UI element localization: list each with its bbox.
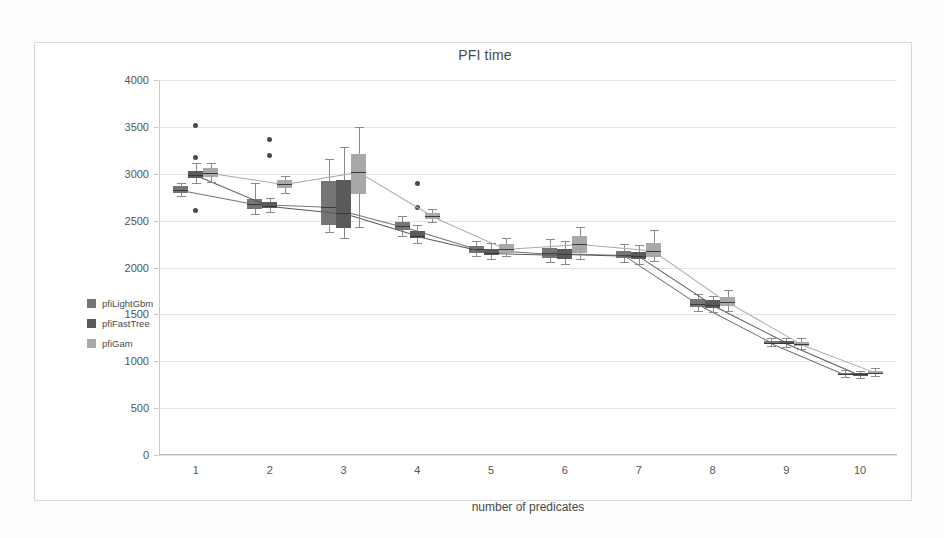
- median-line: [838, 374, 853, 375]
- y-axis-tick-mark: [154, 80, 159, 81]
- whisker-cap: [325, 159, 334, 160]
- whisker-cap: [502, 238, 511, 239]
- y-axis-tick-label: 3000: [89, 168, 157, 180]
- median-line: [499, 249, 514, 250]
- whisker-cap: [177, 183, 186, 184]
- median-line: [720, 302, 735, 303]
- outlier-point[interactable]: [267, 153, 272, 158]
- median-line: [410, 236, 425, 237]
- y-axis-tick-label: 2500: [89, 215, 157, 227]
- whisker-cap: [340, 238, 349, 239]
- median-line: [188, 175, 203, 176]
- median-line: [631, 256, 646, 257]
- whisker-cap: [620, 244, 629, 245]
- whisker-cap: [724, 311, 733, 312]
- gridline: [159, 127, 897, 128]
- y-axis-tick-label: 0: [89, 449, 157, 461]
- y-axis-tick-mark: [154, 127, 159, 128]
- gridline: [159, 80, 897, 81]
- outlier-point[interactable]: [267, 137, 272, 142]
- median-line: [277, 184, 292, 185]
- median-line: [395, 226, 410, 227]
- x-axis-label: number of predicates: [159, 500, 897, 514]
- gridline: [159, 408, 897, 409]
- whisker-cap: [281, 193, 290, 194]
- y-axis-tick-label: 1000: [89, 355, 157, 367]
- median-line: [425, 216, 440, 217]
- whisker-cap: [546, 262, 555, 263]
- y-axis-tick-mark: [154, 268, 159, 269]
- y-axis-tick-mark: [154, 221, 159, 222]
- whisker-cap: [413, 225, 422, 226]
- legend-swatch-icon: [87, 339, 96, 348]
- whisker-cap: [871, 368, 880, 369]
- median-line: [764, 343, 779, 344]
- legend-item-label: pfiGam: [102, 338, 133, 349]
- whisker-cap: [709, 312, 718, 313]
- whisker-cap: [398, 236, 407, 237]
- whisker-cap: [398, 216, 407, 217]
- box-plot-box[interactable]: [321, 181, 336, 225]
- whisker-cap: [192, 163, 201, 164]
- whisker-cap: [561, 264, 570, 265]
- y-axis-tick-mark: [154, 408, 159, 409]
- median-line: [705, 305, 720, 306]
- whisker-cap: [502, 256, 511, 257]
- whisker-cap: [340, 147, 349, 148]
- whisker-cap: [856, 378, 865, 379]
- whisker-cap: [355, 127, 364, 128]
- chart-page: PFI time pfiLightGbmpfiFastTreepfiGam 05…: [0, 0, 944, 538]
- whisker-cap: [797, 338, 806, 339]
- whisker-cap: [767, 346, 776, 347]
- series-connector-line: [638, 256, 712, 306]
- x-axis-tick-label: 1: [193, 464, 199, 476]
- median-line: [779, 343, 794, 344]
- whisker-cap: [635, 264, 644, 265]
- whisker-cap: [281, 176, 290, 177]
- whisker-cap: [428, 209, 437, 210]
- x-axis-tick-label: 4: [414, 464, 420, 476]
- outlier-point[interactable]: [415, 181, 420, 186]
- y-axis-tick-mark: [154, 174, 159, 175]
- x-axis-tick-label: 6: [562, 464, 568, 476]
- median-line: [262, 206, 277, 207]
- chart-frame: PFI time pfiLightGbmpfiFastTreepfiGam 05…: [34, 42, 912, 501]
- outlier-point[interactable]: [193, 208, 198, 213]
- whisker-cap: [620, 262, 629, 263]
- whisker-cap: [724, 290, 733, 291]
- box-plot-box[interactable]: [351, 154, 366, 194]
- whisker-cap: [797, 349, 806, 350]
- whisker-cap: [177, 196, 186, 197]
- whisker-cap: [487, 259, 496, 260]
- median-line: [203, 173, 218, 174]
- series-connector-line: [623, 255, 697, 305]
- whisker-cap: [546, 239, 555, 240]
- median-line: [321, 207, 336, 208]
- y-axis-tick-label: 1500: [89, 308, 157, 320]
- whisker-cap: [266, 212, 275, 213]
- median-line: [794, 344, 809, 345]
- whisker-cap: [207, 182, 216, 183]
- y-axis-tick-label: 4000: [89, 74, 157, 86]
- median-line: [173, 190, 188, 191]
- y-axis-tick-mark: [154, 455, 159, 456]
- x-axis-tick-label: 7: [636, 464, 642, 476]
- x-axis-tick-label: 10: [854, 464, 866, 476]
- gridline: [159, 221, 897, 222]
- median-line: [868, 373, 883, 374]
- whisker-cap: [650, 230, 659, 231]
- median-line: [351, 172, 366, 173]
- outlier-point[interactable]: [193, 155, 198, 160]
- gridline: [159, 268, 897, 269]
- whisker-cap: [871, 376, 880, 377]
- gridline: [159, 455, 897, 456]
- y-axis-tick-label: 500: [89, 402, 157, 414]
- whisker-cap: [251, 214, 260, 215]
- x-axis-tick-label: 8: [709, 464, 715, 476]
- whisker-cap: [561, 241, 570, 242]
- whisker-cap: [207, 163, 216, 164]
- whisker-cap: [266, 198, 275, 199]
- box-plot-box[interactable]: [336, 180, 351, 228]
- whisker-cap: [192, 183, 201, 184]
- x-axis-tick-label: 9: [783, 464, 789, 476]
